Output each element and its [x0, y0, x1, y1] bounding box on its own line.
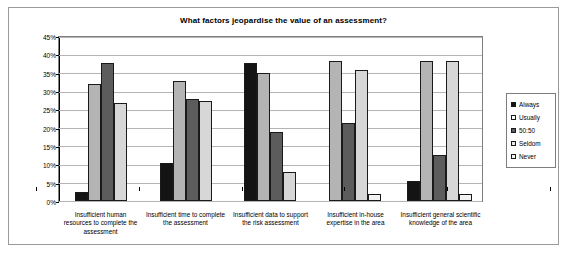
legend-label: Usually — [519, 114, 540, 121]
legend-item[interactable]: Usually — [511, 111, 552, 124]
legend-item[interactable]: Always — [511, 98, 552, 111]
legend-swatch-icon — [511, 154, 516, 159]
legend-item[interactable]: Seldom — [511, 137, 552, 150]
legend-swatch-icon — [511, 128, 516, 133]
legend-label: Always — [519, 101, 539, 108]
y-axis-tick-label: 35% — [43, 70, 56, 77]
plot-area: 0%5%10%15%20%25%30%35%40%45% — [58, 36, 483, 202]
gridline: 0% — [59, 201, 482, 202]
chart-title: What factors jeopardise the value of an … — [9, 16, 558, 25]
chart-frame: What factors jeopardise the value of an … — [8, 7, 559, 245]
bar-never — [368, 194, 381, 201]
bar-50-50 — [433, 155, 446, 201]
y-axis-tick-label: 20% — [43, 125, 56, 132]
x-axis-tick-mark — [36, 187, 37, 191]
plot-wrapper: 0%5%10%15%20%25%30%35%40%45% — [31, 32, 491, 207]
bar-group — [59, 37, 144, 201]
category-label: Insufficient time to complete the assess… — [143, 211, 228, 236]
y-axis-tick-label: 45% — [43, 34, 56, 41]
category-label: Insufficient general scientific knowledg… — [398, 211, 483, 236]
category-label: Insufficient human resources to complete… — [58, 211, 143, 236]
x-axis-tick-mark — [242, 187, 243, 191]
bar-usually — [257, 73, 270, 201]
y-axis-tick-label: 30% — [43, 88, 56, 95]
bar-group — [228, 37, 313, 201]
y-axis-tick-label: 0% — [47, 199, 56, 206]
y-axis-tick-mark — [56, 202, 59, 203]
x-axis-tick-mark — [447, 187, 448, 191]
x-axis-tick-mark — [550, 187, 551, 191]
legend-label: 50:50 — [519, 127, 535, 134]
bar-seldom — [446, 61, 459, 201]
legend-item[interactable]: Never — [511, 150, 552, 163]
bar-always — [75, 192, 88, 201]
bar-group — [144, 37, 229, 201]
bar-never — [459, 194, 472, 201]
legend-swatch-icon — [511, 115, 516, 120]
bar-group — [397, 37, 482, 201]
chart-legend: AlwaysUsually50:50SeldomNever — [506, 93, 556, 168]
y-axis-tick-label: 15% — [43, 143, 56, 150]
bar-groups — [59, 37, 482, 201]
bar-group — [313, 37, 398, 201]
bar-usually — [88, 84, 101, 201]
bar-50-50 — [186, 99, 199, 201]
x-axis-tick-mark — [139, 187, 140, 191]
bar-seldom — [355, 70, 368, 201]
bar-always — [160, 163, 173, 201]
legend-swatch-icon — [511, 141, 516, 146]
category-labels: Insufficient human resources to complete… — [31, 211, 491, 251]
bar-usually — [329, 61, 342, 201]
x-axis-ticks — [36, 187, 550, 191]
legend-label: Never — [519, 153, 536, 160]
legend-swatch-icon — [511, 102, 516, 107]
bar-always — [244, 63, 257, 201]
bar-usually — [420, 61, 433, 201]
bar-seldom — [199, 101, 212, 201]
category-label: Insufficient data to support the risk as… — [228, 211, 313, 236]
bar-50-50 — [101, 63, 114, 201]
bar-usually — [173, 81, 186, 201]
y-axis-tick-label: 10% — [43, 162, 56, 169]
legend-item[interactable]: 50:50 — [511, 124, 552, 137]
x-axis-tick-mark — [344, 187, 345, 191]
y-axis-tick-label: 40% — [43, 52, 56, 59]
legend-label: Seldom — [519, 140, 541, 147]
y-axis-tick-label: 25% — [43, 107, 56, 114]
category-label: Insufficient in-house expertise in the a… — [313, 211, 398, 236]
